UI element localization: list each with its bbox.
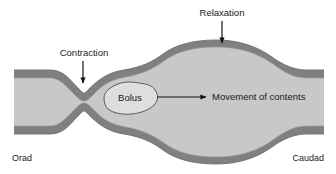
gi-tract-tube (14, 40, 324, 164)
relaxation-label: Relaxation (200, 7, 245, 18)
relaxation-callout: Relaxation (200, 7, 245, 43)
movement-label: Movement of contents (212, 91, 306, 102)
caudad-label: Caudad (292, 153, 324, 163)
peristalsis-diagram-figure: Relaxation Contraction Bolus Movement of… (0, 0, 336, 174)
diagram-canvas: Relaxation Contraction Bolus Movement of… (0, 0, 336, 174)
orad-label: Orad (12, 153, 32, 163)
bolus-label: Bolus (118, 92, 142, 103)
contraction-label: Contraction (60, 47, 109, 58)
